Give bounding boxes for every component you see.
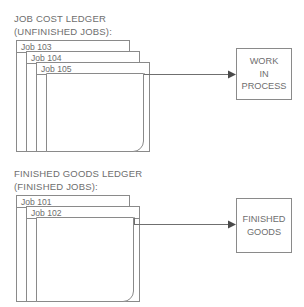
arrow-to-finished-goods [0, 0, 304, 307]
acct-line: FINISHED [243, 213, 286, 226]
job-cost-flow-diagram: JOB COST LEDGER (UNFINISHED JOBS): Job 1… [0, 0, 304, 307]
finished-goods-box[interactable]: FINISHED GOODS [236, 198, 292, 253]
acct-line: GOODS [247, 226, 281, 239]
